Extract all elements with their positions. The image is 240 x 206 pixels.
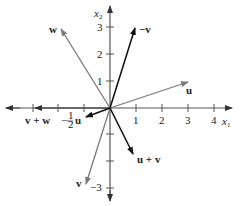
y-tick-neg3: −3: [90, 181, 102, 193]
svg-text:−: −: [61, 114, 67, 126]
y-tick-1: 1: [97, 75, 103, 87]
svg-text:u: u: [75, 114, 81, 126]
vector-neg-v: −v: [110, 23, 151, 108]
x-axis-label: x1: [221, 115, 231, 129]
y-tick-3: 3: [97, 21, 103, 33]
x-tick-2: 2: [159, 114, 165, 126]
y-tick-2: 2: [97, 48, 103, 60]
x-tick-4: 4: [211, 114, 217, 126]
y-axis: 1 2 3 −3 x2: [90, 6, 114, 201]
vector-diagram: 1 2 3 4 x1 1 2 3 −3 x2 u −v w v u +: [0, 0, 240, 206]
vector-neg-half-u: − 1 2 u: [61, 108, 110, 130]
svg-text:u + v: u + v: [137, 153, 161, 165]
svg-text:−v: −v: [139, 23, 151, 35]
svg-text:u: u: [186, 84, 192, 96]
vector-w: w: [49, 23, 110, 108]
svg-text:v: v: [76, 177, 82, 189]
svg-text:2: 2: [68, 118, 74, 130]
x-tick-1: 1: [133, 114, 139, 126]
x-tick-3: 3: [185, 114, 191, 126]
y-axis-label: x2: [93, 7, 103, 21]
vector-u: u: [110, 82, 192, 108]
svg-text:v + w: v + w: [25, 114, 50, 126]
svg-text:w: w: [49, 23, 57, 35]
